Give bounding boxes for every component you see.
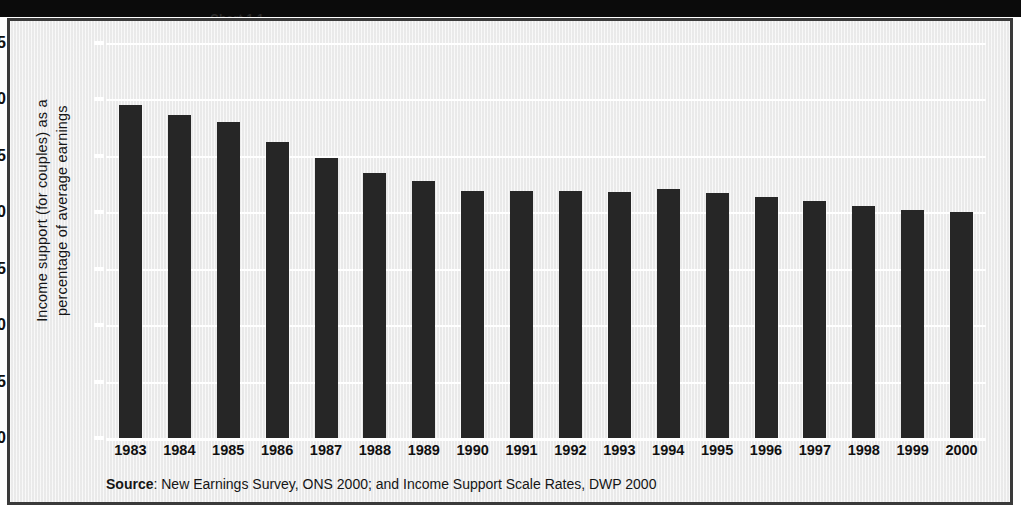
bar-1988 [363, 173, 386, 438]
bar-1993 [608, 192, 631, 438]
y-tick-mark-35 [94, 41, 104, 45]
figure-frame: Income support (for couples) as a percen… [7, 18, 1013, 505]
x-tick-label-1988: 1988 [352, 442, 398, 458]
y-tick-label-35: 35 [0, 34, 6, 52]
bar-1987 [315, 158, 338, 438]
title-strip: Chart 1.1 [0, 0, 1021, 17]
y-tick-mark-0 [94, 436, 104, 440]
y-tick-mark-15 [94, 267, 104, 271]
source-note-lead: Source [106, 476, 153, 492]
x-tick-label-1992: 1992 [547, 442, 593, 458]
y-tick-mark-5 [94, 380, 104, 384]
x-tick-label-1991: 1991 [499, 442, 545, 458]
x-tick-label-1996: 1996 [743, 442, 789, 458]
bar-1998 [852, 206, 875, 438]
y-tick-label-20: 20 [0, 203, 6, 221]
x-tick-label-1990: 1990 [450, 442, 496, 458]
bar-1995 [706, 193, 729, 438]
x-tick-label-2000: 2000 [939, 442, 985, 458]
y-tick-label-30: 30 [0, 90, 6, 108]
x-tick-label-1997: 1997 [792, 442, 838, 458]
bar-1991 [510, 191, 533, 438]
y-tick-label-0: 0 [0, 429, 6, 447]
x-tick-label-1986: 1986 [254, 442, 300, 458]
y-tick-mark-10 [94, 323, 104, 327]
x-tick-label-1985: 1985 [205, 442, 251, 458]
y-axis-title: Income support (for couples) as a percen… [33, 31, 72, 391]
source-note-text: : New Earnings Survey, ONS 2000; and Inc… [153, 476, 656, 492]
x-tick-label-1998: 1998 [841, 442, 887, 458]
x-axis-labels: 1983198419851986198719881989199019911992… [106, 442, 986, 464]
y-tick-mark-20 [94, 210, 104, 214]
bar-1996 [755, 197, 778, 439]
x-tick-label-1995: 1995 [694, 442, 740, 458]
bars-group [106, 43, 986, 438]
source-note: Source: New Earnings Survey, ONS 2000; a… [106, 476, 656, 492]
bar-1997 [803, 201, 826, 438]
x-tick-label-1987: 1987 [303, 442, 349, 458]
x-tick-label-1983: 1983 [107, 442, 153, 458]
x-tick-label-1993: 1993 [596, 442, 642, 458]
y-tick-label-5: 5 [0, 373, 6, 391]
x-tick-label-1999: 1999 [890, 442, 936, 458]
figure-page: Chart 1.1 Income support (for couples) a… [0, 0, 1021, 512]
y-tick-mark-25 [94, 154, 104, 158]
bar-1986 [266, 142, 289, 438]
bar-1985 [217, 122, 240, 438]
bar-1994 [657, 189, 680, 438]
x-tick-label-1994: 1994 [645, 442, 691, 458]
plot-wrapper: Income support (for couples) as a percen… [10, 21, 1016, 508]
x-tick-label-1984: 1984 [156, 442, 202, 458]
y-tick-label-25: 25 [0, 147, 6, 165]
y-tick-mark-30 [94, 97, 104, 101]
bar-1990 [461, 191, 484, 438]
bar-1992 [559, 191, 582, 438]
plot-area [106, 43, 986, 438]
y-tick-label-15: 15 [0, 260, 6, 278]
y-tick-label-10: 10 [0, 316, 6, 334]
bar-1999 [901, 210, 924, 438]
x-tick-label-1989: 1989 [401, 442, 447, 458]
bar-1984 [168, 115, 191, 438]
bar-1983 [119, 105, 142, 438]
bar-2000 [950, 212, 973, 438]
title-strip-text: Chart 1.1 [210, 12, 264, 17]
gridline-0 [106, 438, 986, 441]
bar-1989 [412, 181, 435, 438]
